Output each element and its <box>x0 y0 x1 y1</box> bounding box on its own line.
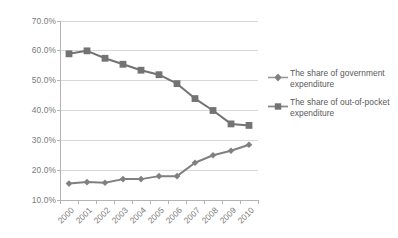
square-marker-icon <box>268 102 288 111</box>
chart-legend: The share of government expenditure The … <box>268 68 398 126</box>
line-chart: 10.0%20.0%30.0%40.0%50.0%60.0%70.0% 2000… <box>0 0 398 238</box>
legend-entry-government: The share of government expenditure <box>268 68 398 91</box>
legend-entry-out-of-pocket: The share of out-of-pocket expenditure <box>268 97 398 120</box>
legend-label-out-of-pocket: The share of out-of-pocket expenditure <box>290 97 398 120</box>
legend-label-government: The share of government expenditure <box>290 68 398 91</box>
diamond-marker-icon <box>268 73 288 82</box>
